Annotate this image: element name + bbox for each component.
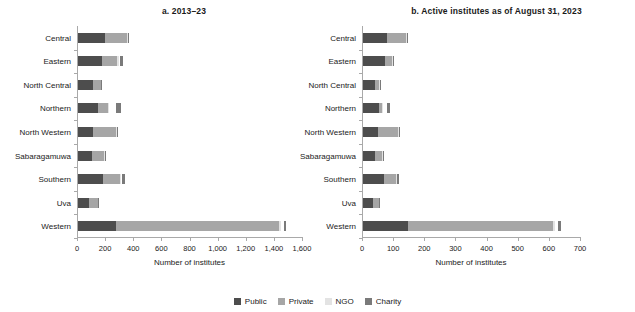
category-label: Sabaragamuwa bbox=[15, 151, 71, 160]
legend-swatch-icon bbox=[325, 298, 332, 305]
table-row bbox=[363, 80, 581, 90]
category-label: Northern bbox=[40, 104, 71, 113]
bar-segment-ngo bbox=[108, 103, 109, 113]
chart-panels: a. 2013–23 Number of institutes 02004006… bbox=[0, 0, 635, 282]
category-label: Sabaragamuwa bbox=[300, 151, 356, 160]
table-row bbox=[78, 80, 303, 90]
bar-segment-public bbox=[78, 127, 93, 137]
panel-a-x-axis-title: Number of institutes bbox=[77, 258, 302, 267]
bar-segment-charity bbox=[387, 103, 390, 113]
x-axis-tick-label: 800 bbox=[183, 244, 196, 253]
x-axis-tick bbox=[161, 238, 162, 241]
x-axis-tick-label: 0 bbox=[75, 244, 79, 253]
bar-segment-charity bbox=[284, 221, 286, 231]
bar-segment-public bbox=[78, 198, 89, 208]
category-label: Northern bbox=[325, 104, 356, 113]
panel-b-title: b. Active institutes as of August 31, 20… bbox=[330, 6, 635, 16]
table-row bbox=[363, 127, 581, 137]
bar-segment-public bbox=[363, 198, 373, 208]
category-label: North Central bbox=[23, 80, 71, 89]
y-axis-tick bbox=[359, 73, 362, 74]
table-row bbox=[78, 33, 303, 43]
x-axis-tick bbox=[274, 238, 275, 241]
y-axis-tick bbox=[74, 144, 77, 145]
x-axis-tick-label: 200 bbox=[99, 244, 112, 253]
chart-panel-a: a. 2013–23 Number of institutes 02004006… bbox=[0, 0, 330, 282]
table-row bbox=[78, 56, 303, 66]
bar-segment-public bbox=[363, 33, 387, 43]
x-axis-tick-label: 400 bbox=[480, 244, 493, 253]
x-axis-tick bbox=[77, 238, 78, 241]
bar-segment-charity bbox=[399, 127, 400, 137]
x-axis-tick bbox=[190, 238, 191, 241]
y-axis-tick bbox=[359, 120, 362, 121]
bar-segment-private bbox=[98, 103, 107, 113]
bar-segment-private bbox=[93, 127, 116, 137]
x-axis-tick bbox=[518, 238, 519, 241]
table-row bbox=[363, 221, 581, 231]
x-axis-tick bbox=[302, 238, 303, 241]
chart-panel-b: b. Active institutes as of August 31, 20… bbox=[330, 0, 635, 282]
x-axis-tick-label: 1,400 bbox=[264, 244, 283, 253]
legend-swatch-icon bbox=[278, 298, 285, 305]
bar-segment-public bbox=[363, 151, 375, 161]
category-label: North Western bbox=[305, 128, 356, 137]
table-row bbox=[78, 103, 303, 113]
y-axis-tick bbox=[74, 167, 77, 168]
category-label: Central bbox=[330, 33, 356, 42]
y-axis-tick bbox=[359, 144, 362, 145]
category-label: North Western bbox=[20, 128, 71, 137]
bar-segment-ngo bbox=[279, 221, 281, 231]
y-axis-tick bbox=[74, 97, 77, 98]
x-axis-tick-label: 100 bbox=[387, 244, 400, 253]
bar-segment-charity bbox=[98, 198, 99, 208]
table-row bbox=[363, 151, 581, 161]
legend-label: Private bbox=[289, 297, 314, 306]
table-row bbox=[363, 56, 581, 66]
x-axis-tick bbox=[580, 238, 581, 241]
x-axis-tick-label: 200 bbox=[418, 244, 431, 253]
bar-segment-private bbox=[92, 151, 104, 161]
bar-segment-public bbox=[363, 56, 385, 66]
table-row bbox=[78, 221, 303, 231]
bar-segment-public bbox=[78, 221, 116, 231]
legend-swatch-icon bbox=[234, 298, 241, 305]
y-axis-tick bbox=[359, 97, 362, 98]
bar-segment-private bbox=[102, 56, 117, 66]
table-row bbox=[363, 174, 581, 184]
x-axis-tick bbox=[393, 238, 394, 241]
x-axis-tick-label: 600 bbox=[543, 244, 556, 253]
table-row bbox=[363, 103, 581, 113]
bar-segment-private bbox=[116, 221, 279, 231]
y-axis-tick bbox=[74, 73, 77, 74]
panel-a-title: a. 2013–23 bbox=[0, 6, 330, 16]
x-axis-tick-label: 500 bbox=[511, 244, 524, 253]
bar-segment-charity bbox=[379, 198, 380, 208]
category-label: Southern bbox=[324, 175, 356, 184]
bar-segment-public bbox=[363, 80, 375, 90]
bar-segment-charity bbox=[116, 103, 121, 113]
x-axis-tick-label: 300 bbox=[449, 244, 462, 253]
table-row bbox=[78, 174, 303, 184]
x-axis-tick-label: 700 bbox=[574, 244, 587, 253]
y-axis-tick bbox=[74, 50, 77, 51]
bar-segment-private bbox=[375, 151, 382, 161]
x-axis-tick-label: 1,200 bbox=[236, 244, 255, 253]
bar-segment-charity bbox=[380, 80, 381, 90]
bar-segment-charity bbox=[128, 33, 129, 43]
y-axis-tick bbox=[359, 50, 362, 51]
y-axis-tick bbox=[359, 214, 362, 215]
legend-item-ngo: NGO bbox=[325, 297, 354, 306]
x-axis-tick bbox=[105, 238, 106, 241]
bar-segment-public bbox=[78, 33, 105, 43]
category-label: Western bbox=[326, 222, 356, 231]
table-row bbox=[363, 198, 581, 208]
x-axis-tick bbox=[218, 238, 219, 241]
table-row bbox=[78, 198, 303, 208]
legend-item-charity: Charity bbox=[365, 297, 401, 306]
y-axis-tick bbox=[359, 238, 362, 239]
y-axis-tick bbox=[74, 120, 77, 121]
bar-segment-ngo bbox=[382, 103, 383, 113]
bar-segment-charity bbox=[105, 151, 106, 161]
legend-item-public: Public bbox=[234, 297, 267, 306]
